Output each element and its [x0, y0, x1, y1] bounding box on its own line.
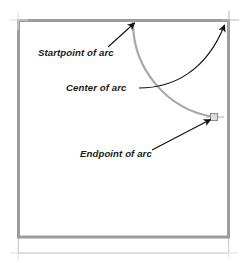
drawing-canvas: Startpoint of arc Center of arc Endpoint…	[0, 0, 250, 263]
annotation-label-startpoint: Startpoint of arc	[38, 47, 114, 58]
annotation-label-endpoint: Endpoint of arc	[80, 148, 152, 159]
grip-marker-endpoint[interactable]	[206, 114, 224, 121]
leader-line-startpoint	[108, 23, 135, 47]
node-marker-bottom-left[interactable]	[10, 245, 27, 261]
leader-line-endpoint	[152, 120, 211, 151]
annotation-center: Center of arc	[66, 25, 225, 93]
drawn-arc[interactable]	[133, 21, 214, 117]
drawing-svg: Startpoint of arc Center of arc Endpoint…	[0, 0, 250, 263]
annotation-endpoint: Endpoint of arc	[80, 120, 211, 160]
shape-skirt	[19, 237, 229, 253]
annotation-startpoint: Startpoint of arc	[38, 23, 135, 58]
annotation-label-center: Center of arc	[66, 82, 127, 93]
node-marker-bottom-right[interactable]	[222, 245, 238, 259]
